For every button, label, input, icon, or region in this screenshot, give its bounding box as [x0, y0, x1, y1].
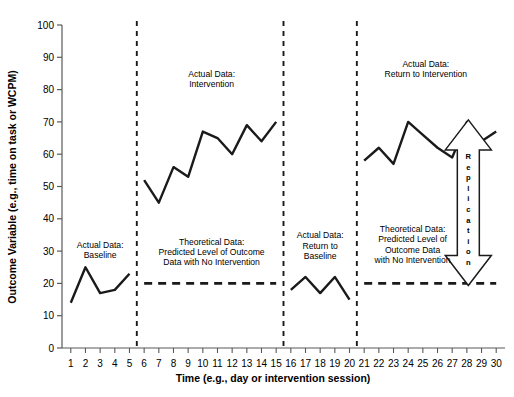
- x-tick-label: 29: [476, 358, 488, 369]
- y-tick-label: 90: [43, 52, 55, 63]
- x-tick-label: 24: [403, 358, 415, 369]
- x-tick-label: 27: [447, 358, 459, 369]
- x-tick-label: 8: [171, 358, 177, 369]
- single-case-design-chart: Outcome Variable (e.g., time on task or …: [0, 0, 514, 397]
- x-tick-label: 1: [68, 358, 74, 369]
- replication-arrow-letter: o: [466, 247, 471, 256]
- x-tick-label: 22: [373, 358, 385, 369]
- x-tick-label: 12: [227, 358, 239, 369]
- x-tick-label: 6: [141, 358, 147, 369]
- y-tick-label: 80: [43, 84, 55, 95]
- annotation-return-to-baseline: Actual Data:Return toBaseline: [297, 230, 344, 261]
- annotation-line: Actual Data:: [188, 69, 235, 79]
- x-tick-label: 2: [83, 358, 89, 369]
- annotation-line: Theoretical Data:: [179, 237, 244, 247]
- x-tick-label: 21: [359, 358, 371, 369]
- annotation-line: Outcome Data: [385, 245, 441, 255]
- y-tick-label: 70: [43, 117, 55, 128]
- x-tick-label: 13: [241, 358, 253, 369]
- y-tick-label: 50: [43, 181, 55, 192]
- annotation-line: Return to Intervention: [384, 69, 467, 79]
- y-tick-label: 60: [43, 149, 55, 160]
- x-tick-label: 10: [197, 358, 209, 369]
- x-tick-label: 11: [212, 358, 223, 369]
- y-tick-label: 30: [43, 246, 55, 257]
- y-axis-title: Outcome Variable (e.g., time on task or …: [6, 70, 18, 303]
- x-tick-label: 4: [112, 358, 118, 369]
- replication-arrow-letter: i: [467, 194, 469, 203]
- y-tick-label: 0: [48, 343, 54, 354]
- x-tick-label: 25: [417, 358, 429, 369]
- chart-canvas: Outcome Variable (e.g., time on task or …: [0, 0, 514, 397]
- annotation-line: Actual Data:: [77, 240, 124, 250]
- replication-arrow-letter: p: [466, 173, 471, 182]
- annotation-line: Data with No Intervention: [163, 257, 260, 267]
- annotation-line: with No Intervention: [374, 255, 451, 265]
- replication-arrow-letter: n: [466, 258, 471, 267]
- y-tick-label: 40: [43, 213, 55, 224]
- x-tick-label: 23: [388, 358, 400, 369]
- annotation-line: Predicted Level of: [378, 234, 447, 244]
- x-tick-label: 16: [285, 358, 297, 369]
- x-tick-label: 26: [432, 358, 444, 369]
- y-tick-label: 100: [37, 20, 54, 31]
- x-tick-label: 15: [271, 358, 283, 369]
- replication-arrow-letter: c: [466, 205, 470, 214]
- x-tick-label: 17: [300, 358, 312, 369]
- x-tick-label: 5: [127, 358, 133, 369]
- annotation-line: Theoretical Data:: [380, 224, 445, 234]
- annotation-line: Actual Data:: [297, 230, 344, 240]
- replication-arrow-letter: R: [466, 152, 472, 161]
- annotation-line: Actual Data:: [402, 59, 449, 69]
- x-tick-label: 28: [461, 358, 473, 369]
- x-tick-label: 19: [329, 358, 341, 369]
- x-tick-label: 9: [185, 358, 191, 369]
- x-tick-label: 3: [97, 358, 103, 369]
- annotation-theoretical-b2: Theoretical Data:Predicted Level ofOutco…: [374, 224, 451, 265]
- annotation-intervention: Actual Data:Intervention: [188, 69, 235, 89]
- x-axis-title: Time (e.g., day or intervention session): [176, 372, 371, 384]
- y-tick-label: 10: [43, 310, 55, 321]
- annotation-line: Baseline: [84, 250, 117, 260]
- x-tick-label: 20: [344, 358, 356, 369]
- x-tick-label: 7: [156, 358, 162, 369]
- x-tick-label: 18: [315, 358, 327, 369]
- annotation-line: Baseline: [304, 251, 337, 261]
- y-tick-label: 20: [43, 278, 55, 289]
- x-tick-label: 30: [491, 358, 503, 369]
- replication-arrow-letter: e: [466, 163, 470, 172]
- annotation-line: Return to: [302, 241, 338, 251]
- replication-arrow-letter: i: [467, 237, 469, 246]
- annotation-line: Predicted Level of Outcome: [159, 247, 265, 257]
- annotation-line: Intervention: [189, 79, 234, 89]
- replication-arrow-letter: l: [467, 184, 469, 193]
- annotation-baseline: Actual Data:Baseline: [77, 240, 124, 260]
- x-tick-label: 14: [256, 358, 268, 369]
